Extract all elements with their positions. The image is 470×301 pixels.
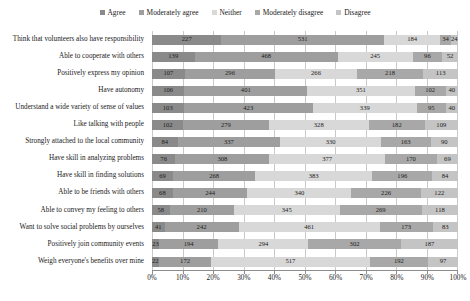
bar-segment[interactable]: 340 (247, 188, 351, 198)
stacked-bar[interactable]: 6926838319684 (152, 171, 458, 181)
x-tick-label: 40% (268, 275, 281, 282)
bar-segment[interactable]: 34 (440, 35, 450, 45)
bar-segment[interactable]: 196 (372, 171, 432, 181)
stacked-bar[interactable]: 8433733016390 (152, 137, 458, 147)
bar-segment[interactable]: 345 (234, 205, 340, 215)
bar-segment[interactable]: 351 (307, 86, 414, 96)
legend-item-4[interactable]: Disagree (336, 9, 370, 16)
bar-segment[interactable]: 266 (275, 69, 356, 79)
bar-value-label: 461 (304, 224, 314, 231)
bar-segment[interactable]: 337 (178, 137, 281, 147)
bar-segment[interactable]: 96 (413, 52, 442, 62)
stacked-bar[interactable]: 4124246117383 (152, 222, 458, 232)
bar-segment[interactable]: 113 (423, 69, 458, 79)
bar-segment[interactable]: 95 (417, 103, 446, 113)
bar-segment[interactable]: 41 (152, 222, 165, 232)
bar-segment[interactable]: 69 (152, 171, 173, 181)
bar-segment[interactable]: 531 (221, 35, 383, 45)
bar-segment[interactable]: 118 (422, 205, 458, 215)
stacked-bar[interactable]: 107296266218113 (152, 69, 458, 79)
bar-segment[interactable]: 69 (437, 154, 458, 164)
bar-segment[interactable]: 269 (340, 205, 422, 215)
bar-segment[interactable]: 328 (269, 120, 369, 130)
bar-segment[interactable]: 170 (385, 154, 437, 164)
bar-value-label: 22 (152, 258, 159, 265)
legend-item-3[interactable]: Moderately disagree (255, 9, 324, 16)
bar-segment[interactable]: 102 (152, 120, 183, 130)
legend-item-2[interactable]: Neither (212, 9, 242, 16)
bar-segment[interactable]: 242 (165, 222, 239, 232)
stacked-bar[interactable]: 58210345269118 (152, 205, 458, 215)
bar-segment[interactable]: 22 (152, 257, 159, 267)
bar-segment[interactable]: 227 (152, 35, 221, 45)
bar-segment[interactable]: 330 (280, 137, 381, 147)
stacked-bar[interactable]: 1034233399540 (152, 103, 458, 113)
bar-segment[interactable]: 244 (173, 188, 248, 198)
bar-segment[interactable]: 423 (184, 103, 313, 113)
bar-segment[interactable]: 84 (152, 137, 178, 147)
bar-segment[interactable]: 184 (384, 35, 440, 45)
bar-segment[interactable]: 187 (401, 239, 458, 249)
bar-segment[interactable]: 245 (338, 52, 413, 62)
bar-segment[interactable]: 517 (211, 257, 369, 267)
bar-segment[interactable]: 172 (159, 257, 212, 267)
bar-segment[interactable]: 383 (255, 171, 372, 181)
bar-segment[interactable]: 106 (152, 86, 184, 96)
stacked-bar[interactable]: 2275311843424 (152, 35, 458, 45)
bar-segment[interactable]: 192 (370, 257, 429, 267)
bar-segment[interactable]: 163 (381, 137, 431, 147)
bar-segment[interactable]: 23 (152, 239, 159, 249)
legend-item-0[interactable]: Agree (100, 9, 126, 16)
bar-segment[interactable]: 210 (170, 205, 234, 215)
bar-segment[interactable]: 182 (369, 120, 425, 130)
bar-segment[interactable]: 58 (152, 205, 170, 215)
bar-segment[interactable]: 173 (380, 222, 433, 232)
bar-segment[interactable]: 401 (184, 86, 307, 96)
stacked-bar[interactable]: 102279328182109 (152, 120, 458, 130)
stacked-bar[interactable]: 10640135110240 (152, 86, 458, 96)
bar-segment[interactable]: 83 (433, 222, 458, 232)
bar-segment[interactable]: 296 (185, 69, 276, 79)
stacked-bar[interactable]: 23194294302187 (152, 239, 458, 249)
stacked-bar[interactable]: 2217251719297 (152, 257, 458, 267)
bar-segment[interactable]: 90 (431, 137, 458, 147)
bar-segment[interactable]: 302 (308, 239, 400, 249)
bar-value-label: 328 (314, 122, 324, 129)
bar-segment[interactable]: 107 (152, 69, 185, 79)
bar-value-label: 330 (326, 139, 336, 146)
bar-segment[interactable]: 52 (442, 52, 458, 62)
bar-segment[interactable]: 139 (152, 52, 195, 62)
bar-segment[interactable]: 194 (159, 239, 218, 249)
stacked-bar[interactable]: 7630837717069 (152, 154, 458, 164)
bar-value-label: 68 (159, 190, 166, 197)
bar-segment[interactable]: 40 (446, 86, 458, 96)
bar-segment[interactable]: 308 (175, 154, 269, 164)
category-label: Able to cooperate with others (0, 48, 148, 65)
legend-item-1[interactable]: Moderately agree (139, 9, 199, 16)
stacked-bar[interactable]: 68244340226122 (152, 188, 458, 198)
bar-segment[interactable]: 103 (152, 103, 184, 113)
bar-segment[interactable]: 339 (313, 103, 417, 113)
bar-segment[interactable]: 40 (446, 103, 458, 113)
bar-segment[interactable]: 218 (357, 69, 424, 79)
bar-segment[interactable]: 122 (421, 188, 458, 198)
bar-segment[interactable]: 279 (183, 120, 268, 130)
bar-segment[interactable]: 24 (451, 35, 458, 45)
bar-segment[interactable]: 102 (415, 86, 446, 96)
bar-value-label: 294 (258, 241, 268, 248)
bar-value-label: 308 (217, 156, 227, 163)
stacked-bar[interactable]: 1394682459652 (152, 52, 458, 62)
bar-segment[interactable]: 84 (432, 171, 458, 181)
bar-segment[interactable]: 461 (239, 222, 380, 232)
bar-value-label: 296 (225, 70, 235, 77)
bar-segment[interactable]: 97 (428, 257, 458, 267)
bar-segment[interactable]: 294 (218, 239, 308, 249)
bar-segment[interactable]: 68 (152, 188, 173, 198)
bar-segment[interactable]: 109 (425, 120, 458, 130)
bar-segment[interactable]: 226 (351, 188, 420, 198)
bar-value-label: 187 (424, 241, 434, 248)
bar-segment[interactable]: 76 (152, 154, 175, 164)
bar-segment[interactable]: 268 (173, 171, 255, 181)
bar-segment[interactable]: 377 (269, 154, 384, 164)
bar-segment[interactable]: 468 (195, 52, 338, 62)
